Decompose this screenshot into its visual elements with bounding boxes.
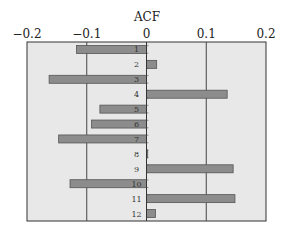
lag-label: 2 <box>134 60 139 69</box>
x-tick-label: 0.2 <box>256 27 275 41</box>
acf-bar <box>49 75 146 83</box>
x-tick-label: 0.1 <box>197 27 216 41</box>
lag-label: 1 <box>134 45 139 54</box>
chart-title: ACF <box>133 10 160 24</box>
lag-label: 11 <box>131 195 141 204</box>
lag-label: 3 <box>134 75 139 84</box>
lag-label: 8 <box>134 150 139 159</box>
lag-label: 4 <box>134 90 139 99</box>
lag-label: 6 <box>134 120 139 129</box>
x-tick-label: 0 <box>143 27 151 41</box>
lag-label: 5 <box>134 105 139 114</box>
acf-bar <box>147 165 234 173</box>
acf-bar <box>147 210 156 218</box>
lag-label: 9 <box>134 165 139 174</box>
lag-label: 12 <box>131 210 141 219</box>
x-tick-label: −0.2 <box>12 27 41 41</box>
acf-chart: ACF −0.2−0.100.10.2 123456789101112 <box>0 0 289 238</box>
x-axis-tick-labels: −0.2−0.100.10.2 <box>12 27 275 41</box>
acf-bar <box>147 60 157 68</box>
lag-label: 7 <box>134 135 139 144</box>
acf-bar <box>100 105 147 113</box>
x-tick-label: −0.1 <box>72 27 101 41</box>
lag-label: 10 <box>131 180 141 189</box>
acf-bar <box>147 90 228 98</box>
acf-bar <box>147 195 235 203</box>
